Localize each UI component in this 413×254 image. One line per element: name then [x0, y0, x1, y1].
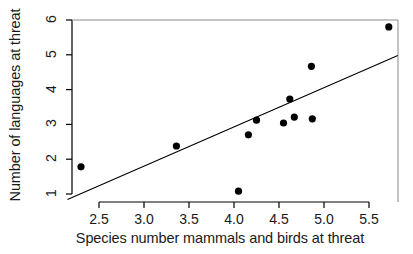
data-point — [280, 119, 287, 126]
trendline — [68, 55, 398, 199]
data-point — [385, 23, 392, 30]
data-point — [235, 188, 242, 195]
data-point — [291, 113, 298, 120]
regression-line — [68, 55, 398, 199]
data-point — [173, 142, 180, 149]
scatter-plot-figure: Number of languages at threat Species nu… — [0, 0, 413, 254]
data-point — [286, 95, 293, 102]
data-point — [77, 163, 84, 170]
data-point — [308, 63, 315, 70]
data-point — [309, 115, 316, 122]
data-point — [245, 131, 252, 138]
axes-group — [66, 20, 398, 208]
data-point — [253, 117, 260, 124]
plot-area — [0, 0, 413, 254]
data-points-group — [77, 23, 392, 194]
